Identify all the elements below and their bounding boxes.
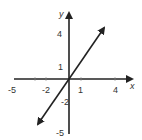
y-tick-label: 4 (57, 29, 62, 39)
y-axis-label: y (58, 9, 64, 19)
x-tick-label: 1 (78, 85, 83, 95)
y-tick-label: -2 (61, 97, 69, 107)
x-tick-label: 4 (113, 85, 118, 95)
plotted-line (69, 28, 104, 79)
y-tick-label: 1 (58, 62, 63, 72)
x-tick-label: -5 (8, 85, 16, 95)
coordinate-plane: y x -5 -2 1 4 4 1 -2 -5 (0, 0, 142, 140)
x-axis-label: x (129, 81, 135, 91)
y-tick-label: -5 (56, 128, 64, 138)
x-tick-label: -2 (42, 85, 50, 95)
